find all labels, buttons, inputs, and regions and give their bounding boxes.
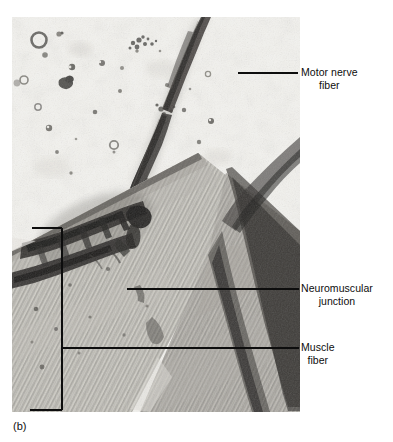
micrograph-image (12, 17, 300, 412)
figure-root: Motor nerve fiber Neuromuscular junction… (0, 0, 393, 442)
callout-line-2: fiber (301, 354, 335, 367)
callout-label-motor-nerve-fiber: Motor nerve fiber (301, 66, 358, 91)
callout-line-1: Neuromuscular (301, 282, 373, 295)
callout-label-muscle-fiber: Muscle fiber (301, 341, 335, 366)
callout-line-1: Motor nerve (301, 66, 358, 79)
micrograph-canvas (12, 17, 300, 412)
callout-line-2: junction (301, 295, 373, 308)
callout-line-1: Muscle (301, 341, 335, 354)
callout-line-2: fiber (301, 79, 358, 92)
callout-label-neuromuscular-junction: Neuromuscular junction (301, 282, 373, 307)
figure-caption: (b) (13, 420, 26, 432)
